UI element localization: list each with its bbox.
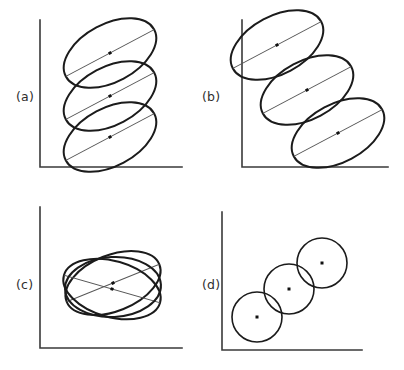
panel-b: (b) xyxy=(202,0,396,182)
figure-canvas: (a)(b)(c)(d) xyxy=(0,0,404,370)
panel-a-axes xyxy=(40,20,182,167)
panel-c-axes xyxy=(40,207,182,348)
panel-label-d: (d) xyxy=(202,277,220,292)
center-dot xyxy=(305,88,309,92)
panel-c-ellipse-3 xyxy=(63,255,162,320)
panel-c-ellipse-1 xyxy=(56,238,170,327)
panel-d-circle-1 xyxy=(232,292,282,342)
center-dot xyxy=(288,288,291,291)
panel-label-b: (b) xyxy=(202,89,220,104)
center-dot xyxy=(256,316,259,319)
panel-a: (a) xyxy=(16,4,182,186)
panel-a-ellipse-2 xyxy=(52,47,168,145)
center-dot xyxy=(336,131,340,135)
figure-container: (a)(b)(c)(d) xyxy=(0,0,404,370)
panel-d-circle-3 xyxy=(297,238,347,288)
ellipse-outline xyxy=(63,255,162,320)
panel-b-ellipse-1 xyxy=(219,0,335,94)
panel-c: (c) xyxy=(16,207,182,348)
center-dot xyxy=(275,43,279,47)
panel-label-a: (a) xyxy=(16,89,34,104)
panel-d-circle-2 xyxy=(264,264,314,314)
center-dot xyxy=(111,281,115,285)
panel-d-axes xyxy=(222,212,362,350)
panel-a-ellipse-3 xyxy=(52,88,168,186)
center-dot xyxy=(108,135,112,139)
center-dot xyxy=(108,94,112,98)
panel-a-ellipse-1 xyxy=(52,4,168,102)
panels-layer: (a)(b)(c)(d) xyxy=(16,0,396,350)
center-dot xyxy=(110,287,114,291)
center-dot xyxy=(108,51,112,55)
panel-d: (d) xyxy=(202,212,362,350)
center-dot xyxy=(321,262,324,265)
panel-label-c: (c) xyxy=(16,277,33,292)
ellipse-outline xyxy=(219,0,335,94)
panel-b-ellipse-2 xyxy=(249,41,365,139)
